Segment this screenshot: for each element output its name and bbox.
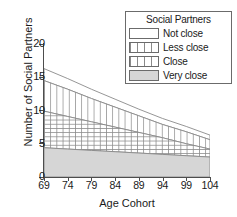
legend-label-less-close: Less close — [163, 42, 208, 53]
solid-gray-swatch — [129, 70, 159, 81]
cross-hatch-swatch — [129, 56, 159, 67]
x-tick-label: 99 — [174, 180, 198, 191]
x-axis-title: Age Cohort — [43, 197, 211, 209]
legend-title: Social Partners — [129, 14, 228, 26]
legend-item-less-close: Less close — [129, 41, 228, 54]
y-axis-title: Number of Social Partners — [22, 7, 34, 157]
stacked-area-chart-figure: 05101520 69747984899499104 Number of Soc… — [0, 0, 237, 217]
vertical-lines-swatch — [129, 42, 159, 53]
legend-label-not-close: Not close — [163, 28, 203, 39]
legend-label-close: Close — [163, 56, 188, 67]
empty-swatch — [129, 28, 159, 39]
chart-legend: Social Partners Not close Less close Clo… — [125, 11, 232, 84]
legend-item-very-close: Very close — [129, 69, 228, 82]
x-tick-label: 89 — [127, 180, 151, 191]
x-tick-label: 94 — [151, 180, 175, 191]
x-tick-label: 104 — [198, 180, 222, 191]
x-tick-label: 69 — [32, 180, 56, 191]
x-tick-label: 79 — [79, 180, 103, 191]
x-tick-label: 84 — [103, 180, 127, 191]
legend-item-close: Close — [129, 55, 228, 68]
legend-item-not-close: Not close — [129, 27, 228, 40]
legend-label-very-close: Very close — [163, 70, 207, 81]
x-tick-label: 74 — [56, 180, 80, 191]
series-layers — [44, 69, 210, 177]
